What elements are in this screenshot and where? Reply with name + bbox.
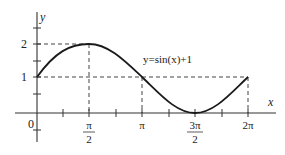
y-tick-label-1: 1	[21, 70, 27, 84]
tick-numerator: 3π	[189, 119, 201, 131]
x-tick-label-2pi: 2π	[242, 119, 254, 131]
x-tick-label-pi: π	[139, 119, 145, 131]
tick-denominator: 2	[192, 133, 198, 145]
y-tick-label-2: 2	[21, 37, 27, 51]
tick-denominator: 2	[86, 133, 92, 145]
function-label: y=sin(x)+1	[143, 53, 192, 66]
origin-label: 0	[28, 117, 34, 131]
sine-chart: y x 2 1 0 π 2 π 3π 2 2π y=sin(x)+1	[0, 0, 285, 155]
y-axis-label: y	[39, 10, 46, 24]
x-tick-label-3pi-half: 3π 2	[187, 119, 203, 145]
x-tick-label-pi-half: π 2	[83, 119, 95, 145]
tick-numerator: π	[86, 119, 92, 131]
x-axis-label: x	[267, 95, 274, 109]
